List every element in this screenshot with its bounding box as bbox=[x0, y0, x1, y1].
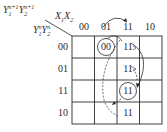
cell-10-11: 11 bbox=[117, 108, 139, 118]
kmap-grid bbox=[0, 0, 167, 132]
cell-00-01: 00 bbox=[95, 42, 117, 52]
cell-01-11: 11 bbox=[117, 64, 139, 74]
cell-00-11: 11 bbox=[117, 42, 139, 52]
input-change-arrow bbox=[103, 18, 127, 27]
cell-11-11: 11 bbox=[117, 86, 139, 96]
corner-diagonal bbox=[45, 20, 72, 36]
